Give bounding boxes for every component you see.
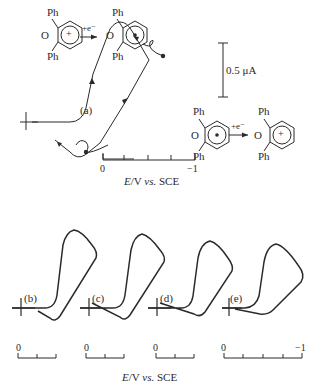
cv-trace-d [148, 241, 233, 316]
panel-label-a: (a) [80, 104, 92, 116]
axis-title-top: E/V vs. SCE [124, 175, 179, 187]
oxygen-label: O [254, 129, 262, 141]
ph-label: Ph [47, 6, 59, 18]
axis-tick-label-start: 0 [100, 163, 105, 174]
electron-label: +e⁻ [82, 23, 96, 33]
panel-label-d: (d) [160, 292, 173, 304]
cv-trace-b [12, 230, 97, 320]
oxygen-label: O [106, 29, 114, 41]
charge-label: + [278, 128, 284, 139]
arrowhead-1 [91, 35, 97, 40]
oxygen-label: O [41, 29, 49, 41]
ph-label: Ph [47, 50, 59, 62]
direction-arrow-up [89, 78, 95, 84]
cv-marker-bottom [84, 150, 88, 154]
axis-tick-label-d: 0 [153, 342, 158, 353]
axis-tick-label-end: −1 [187, 163, 198, 174]
potential-axis-top [103, 153, 195, 160]
oxygen-label: O [191, 129, 199, 141]
ph-label: Ph [258, 150, 270, 162]
panel-label-c: (c) [92, 292, 104, 304]
scale-bar-label: 0.5 μA [226, 64, 256, 76]
cv-marker-top [161, 54, 165, 58]
axis-tick-label-b: 0 [16, 342, 21, 353]
arrowhead-2 [242, 133, 248, 138]
direction-arrow-right [133, 36, 139, 41]
pyranyl-radical-structure-1 [117, 19, 147, 51]
potential-axis-d [156, 353, 194, 358]
radical-dot-2 [215, 133, 219, 137]
axis-tick-label-e-start: 0 [221, 342, 226, 353]
axis-tick-label-e-end: −1 [295, 342, 306, 353]
cv-wiggle-bottom [76, 141, 108, 153]
potential-axis-c [86, 353, 124, 358]
pyranyl-radical-structure-2 [199, 119, 229, 151]
potential-axis-b [18, 353, 56, 358]
axis-title-bottom: E/V vs. SCE [122, 371, 177, 383]
cv-trace-a [32, 22, 149, 157]
ph-label: Ph [258, 105, 270, 117]
ph-label: Ph [112, 50, 124, 62]
panel-label-e: (e) [230, 292, 242, 304]
ph-label: Ph [193, 105, 205, 117]
electron-label: +e⁻ [231, 121, 245, 131]
charge-label: + [66, 28, 72, 39]
axis-tick-label-c: 0 [84, 342, 89, 353]
ph-label: Ph [112, 6, 124, 18]
panel-label-b: (b) [24, 292, 37, 304]
potential-axis-e [224, 353, 302, 358]
ph-label: Ph [193, 150, 205, 162]
